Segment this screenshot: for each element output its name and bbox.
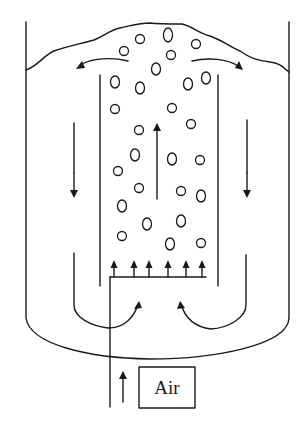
top-outflow-right-arrow: [192, 59, 238, 66]
air-label: Air: [154, 377, 180, 398]
sparger-outlet-arrows: [111, 260, 206, 277]
gas-bubble: [143, 218, 152, 230]
airlift-bioreactor-diagram: Air: [0, 0, 306, 431]
bottom-return-right: [181, 255, 246, 329]
gas-bubble: [168, 153, 177, 165]
gas-bubble: [120, 47, 129, 56]
top-outflow-left-arrow: [80, 59, 128, 65]
gas-bubble: [152, 63, 161, 75]
sparger-outlet-arrowhead: [111, 260, 118, 268]
arrowhead-bottom-left: [134, 301, 142, 309]
gas-bubble: [164, 28, 173, 42]
bottom-return-left: [74, 253, 138, 328]
gas-bubble: [111, 76, 120, 88]
top-outflow-left-arrowhead: [76, 61, 85, 69]
gas-bubble: [196, 156, 205, 165]
sparger-outlet-arrowhead: [165, 260, 172, 268]
gas-bubble: [177, 215, 186, 227]
gas-bubble: [135, 126, 144, 135]
sparger-outlet-arrowhead: [199, 260, 206, 268]
gas-bubble: [135, 184, 144, 193]
gas-bubble: [197, 239, 206, 248]
sparger-outlet-arrowhead: [183, 260, 190, 268]
arrowhead-bottom-right: [177, 301, 185, 309]
gas-bubble: [177, 187, 186, 196]
air-inlet-arrowhead: [119, 371, 127, 379]
sparger-outlet-arrowhead: [131, 260, 138, 268]
gas-bubble: [197, 190, 206, 202]
gas-bubble: [166, 238, 175, 250]
gas-bubble: [114, 167, 123, 176]
gas-bubbles: [111, 28, 211, 250]
sparger-outlet-arrowhead: [146, 260, 153, 268]
downcomer-right-arrowhead: [243, 190, 251, 198]
gas-bubble: [118, 232, 127, 241]
gas-bubble: [187, 120, 196, 129]
gas-bubble: [111, 105, 120, 114]
downcomer-left-arrowhead: [70, 190, 78, 198]
gas-bubble: [168, 104, 177, 113]
gas-bubble: [192, 40, 201, 49]
gas-bubble: [202, 72, 211, 84]
riser-upflow-arrowhead: [153, 123, 161, 131]
gas-bubble: [184, 78, 193, 90]
gas-bubble: [167, 51, 176, 60]
gas-bubble: [131, 149, 140, 161]
gas-bubble: [136, 35, 145, 44]
gas-bubble: [136, 82, 145, 94]
gas-bubble: [118, 200, 127, 212]
